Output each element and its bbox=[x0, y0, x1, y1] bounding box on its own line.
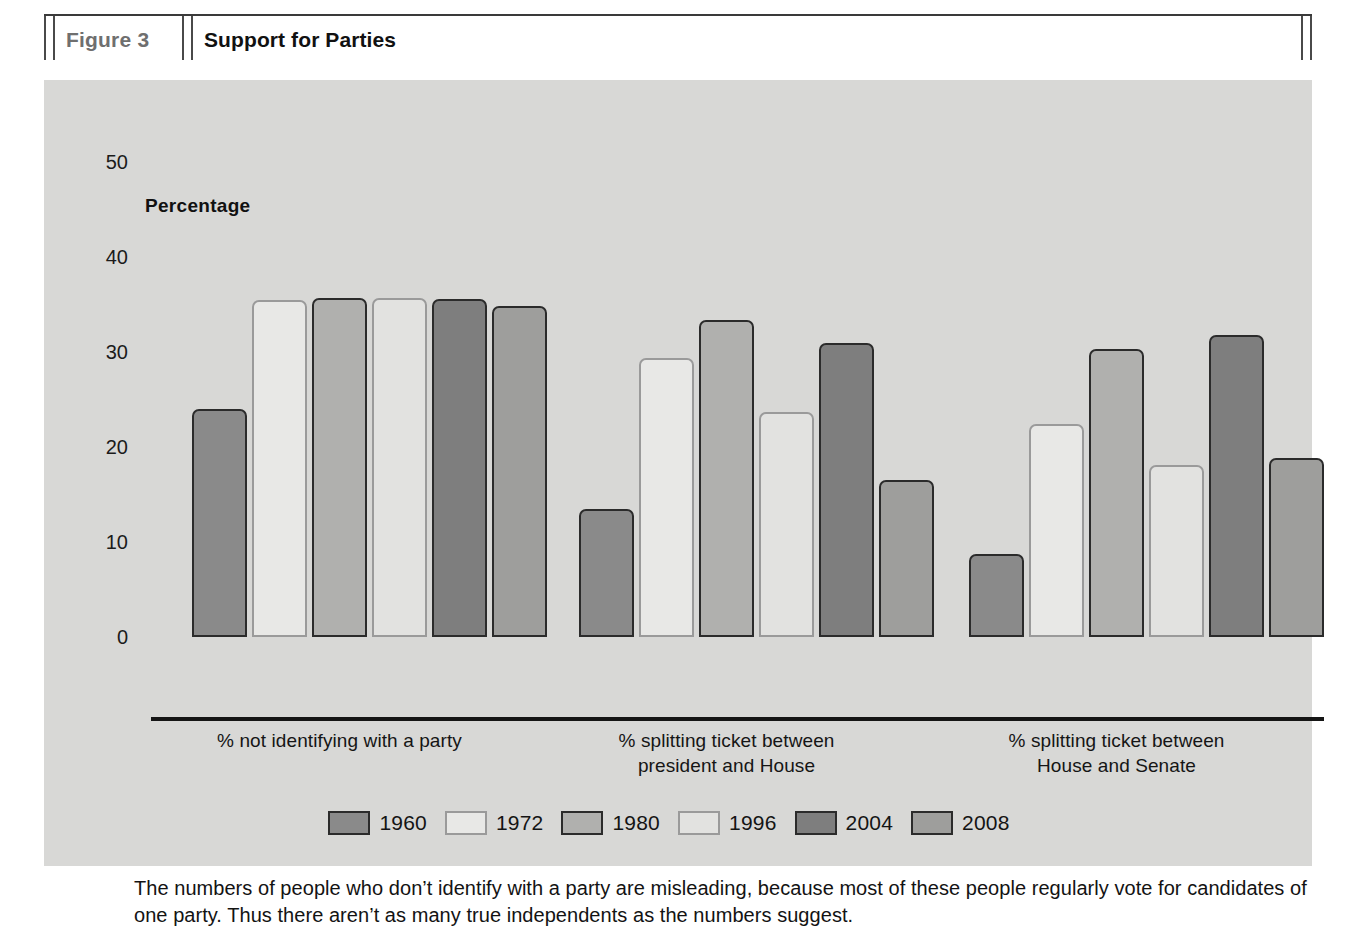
y-axis-tick-40: 40 bbox=[88, 246, 128, 269]
category-label-line: % splitting ticket between bbox=[549, 728, 904, 753]
legend-swatch-2004 bbox=[795, 811, 837, 835]
bar-1960-group3 bbox=[969, 554, 1024, 637]
bar-2004-group2 bbox=[819, 343, 874, 638]
bar-2008-group1 bbox=[492, 306, 547, 637]
bar-2004-group1 bbox=[432, 299, 487, 637]
bar-1972-group2 bbox=[639, 358, 694, 637]
y-axis-tick-50: 50 bbox=[88, 151, 128, 174]
bar-1996-group3 bbox=[1149, 465, 1204, 637]
figure-number: Figure 3 bbox=[66, 28, 149, 52]
bar-1980-group2 bbox=[699, 320, 754, 637]
bar-1972-group1 bbox=[252, 300, 307, 637]
category-label-line: % not identifying with a party bbox=[162, 728, 517, 753]
legend-label-2004: 2004 bbox=[846, 811, 894, 835]
y-axis-tick-30: 30 bbox=[88, 341, 128, 364]
category-label-line: House and Senate bbox=[939, 753, 1294, 778]
bar-1980-group3 bbox=[1089, 349, 1144, 637]
legend-swatch-2008 bbox=[911, 811, 953, 835]
bar-2008-group2 bbox=[879, 480, 934, 637]
chart-legend: 196019721980199620042008 bbox=[44, 811, 1312, 835]
y-axis-tick-20: 20 bbox=[88, 436, 128, 459]
legend-item-2004: 2004 bbox=[795, 811, 894, 835]
category-label-3: % splitting ticket betweenHouse and Sena… bbox=[939, 728, 1294, 778]
bar-1960-group1 bbox=[192, 409, 247, 637]
header-double-rule-left bbox=[44, 16, 55, 60]
figure-caption: The numbers of people who don’t identify… bbox=[134, 875, 1309, 929]
category-label-line: president and House bbox=[549, 753, 904, 778]
header-double-rule-middle bbox=[182, 16, 193, 60]
legend-item-1960: 1960 bbox=[328, 811, 427, 835]
legend-swatch-1960 bbox=[328, 811, 370, 835]
figure-header: Figure 3 Support for Parties bbox=[44, 14, 1312, 60]
category-label-1: % not identifying with a party bbox=[162, 728, 517, 753]
legend-swatch-1972 bbox=[445, 811, 487, 835]
legend-label-1960: 1960 bbox=[379, 811, 427, 835]
legend-item-1996: 1996 bbox=[678, 811, 777, 835]
header-double-rule-right bbox=[1301, 16, 1312, 60]
legend-swatch-1980 bbox=[561, 811, 603, 835]
chart-panel: Percentage 01020304050 % not identifying… bbox=[44, 80, 1312, 866]
legend-label-1996: 1996 bbox=[729, 811, 777, 835]
plot-area: 01020304050 % not identifying with a par… bbox=[44, 80, 1312, 866]
legend-label-2008: 2008 bbox=[962, 811, 1010, 835]
bar-1996-group2 bbox=[759, 412, 814, 637]
bar-1972-group3 bbox=[1029, 424, 1084, 637]
category-label-line: % splitting ticket between bbox=[939, 728, 1294, 753]
bar-1980-group1 bbox=[312, 298, 367, 637]
x-axis-line bbox=[151, 717, 1324, 721]
legend-swatch-1996 bbox=[678, 811, 720, 835]
bar-2008-group3 bbox=[1269, 458, 1324, 637]
legend-item-2008: 2008 bbox=[911, 811, 1010, 835]
bar-1996-group1 bbox=[372, 298, 427, 637]
y-axis-tick-10: 10 bbox=[88, 531, 128, 554]
legend-label-1972: 1972 bbox=[496, 811, 544, 835]
y-axis-tick-0: 0 bbox=[88, 626, 128, 649]
legend-label-1980: 1980 bbox=[612, 811, 660, 835]
bar-2004-group3 bbox=[1209, 335, 1264, 637]
category-label-2: % splitting ticket betweenpresident and … bbox=[549, 728, 904, 778]
legend-item-1972: 1972 bbox=[445, 811, 544, 835]
bar-1960-group2 bbox=[579, 509, 634, 637]
legend-item-1980: 1980 bbox=[561, 811, 660, 835]
figure-title: Support for Parties bbox=[204, 28, 396, 52]
